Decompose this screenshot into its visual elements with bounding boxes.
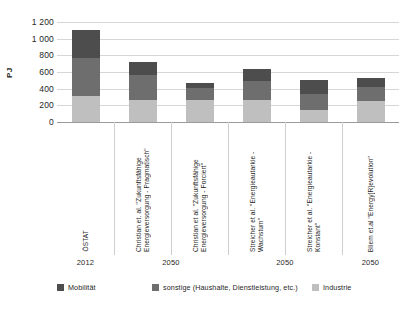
group-year-label: 2050 [228, 258, 342, 267]
bar-stack[interactable] [129, 62, 157, 122]
bar-segment [300, 94, 328, 110]
bar-stack[interactable] [243, 69, 271, 122]
y-tick-label-1200: 1 200 [20, 17, 54, 27]
y-tick-label-1000: 1 000 [20, 34, 54, 44]
legend-label: Mobilität [68, 283, 96, 292]
bar-slot [342, 22, 399, 122]
bar-segment [357, 87, 385, 101]
bar-stack[interactable] [357, 78, 385, 122]
category-label-text: Bliem et.al "Energy[R]evolution" [367, 156, 375, 252]
group-year-label: 2050 [114, 258, 228, 267]
category-label-text: Christian et al. "Zukunftsfähige Energie… [192, 124, 208, 252]
y-tick-label-200: 200 [20, 100, 54, 110]
bar-stack[interactable] [72, 30, 100, 122]
y-tick-label-800: 800 [20, 50, 54, 60]
category-label-text: Streicher et al. "Energieautarkie - Kons… [306, 124, 322, 252]
category-label: Christian et. al. "Zukunftsfähige Energi… [114, 124, 171, 252]
category-label: Christian et al. "Zukunftsfähige Energie… [171, 124, 228, 252]
group-year-label: 2050 [342, 258, 399, 267]
bar-slot [114, 22, 171, 122]
bar-segment [243, 69, 271, 81]
bar-segment [357, 78, 385, 87]
bar-stack[interactable] [300, 80, 328, 122]
x-axis-group-labels: 2012205020502050 [57, 258, 399, 270]
legend-item[interactable]: sonstige (Haushalte, Dienstleistung, etc… [152, 283, 298, 292]
bar-slot [228, 22, 285, 122]
legend-item[interactable]: Mobilität [57, 283, 96, 292]
group-year-label: 2012 [57, 258, 114, 267]
legend-swatch-icon [312, 284, 319, 291]
y-tick-label-0: 0 [20, 117, 54, 127]
category-label-text: Christian et. al. "Zukunftsfähige Energi… [135, 124, 151, 252]
legend-item[interactable]: Industrie [312, 283, 351, 292]
bar-segment [186, 100, 214, 122]
bar-slot [57, 22, 114, 122]
bar-segment [129, 100, 157, 122]
chart-legend: Mobilitätsonstige (Haushalte, Dienstleis… [57, 283, 402, 295]
category-label: Streicher et al. "Energieautarkie - Kons… [285, 124, 342, 252]
x-axis-category-labels: ÖSTATChristian et. al. "Zukunftsfähige E… [57, 124, 399, 254]
bar-segment [243, 100, 271, 122]
y-tick-label-600: 600 [20, 67, 54, 77]
bar-segment [186, 88, 214, 100]
bar-segment [300, 110, 328, 123]
bar-segment [357, 101, 385, 122]
bar-segment [300, 80, 328, 93]
y-axis-title: PJ [2, 58, 16, 88]
legend-swatch-icon [57, 284, 64, 291]
legend-swatch-icon [152, 284, 159, 291]
bar-segment [129, 75, 157, 100]
legend-label: sonstige (Haushalte, Dienstleistung, etc… [163, 283, 298, 292]
bar-segment [72, 96, 100, 122]
stacked-bar-chart: PJ 02004006008001 0001 200 ÖSTATChristia… [0, 0, 406, 311]
bar-slot [285, 22, 342, 122]
bar-segment [243, 81, 271, 100]
bars-layer [57, 22, 399, 122]
y-tick-label-400: 400 [20, 84, 54, 94]
bar-segment [72, 30, 100, 58]
bar-slot [171, 22, 228, 122]
category-label: ÖSTAT [57, 124, 114, 252]
bar-segment [72, 58, 100, 96]
y-axis-tick-labels: 02004006008001 0001 200 [16, 22, 54, 122]
bar-stack[interactable] [186, 83, 214, 122]
bar-segment [129, 62, 157, 75]
category-label: Streicher et al. "Energieautarkie - Wach… [228, 124, 285, 252]
legend-label: Industrie [323, 283, 351, 292]
category-label-text: Streicher et al. "Energieautarkie - Wach… [249, 124, 265, 252]
category-label-text: ÖSTAT [82, 230, 90, 252]
category-label: Bliem et.al "Energy[R]evolution" [342, 124, 399, 252]
